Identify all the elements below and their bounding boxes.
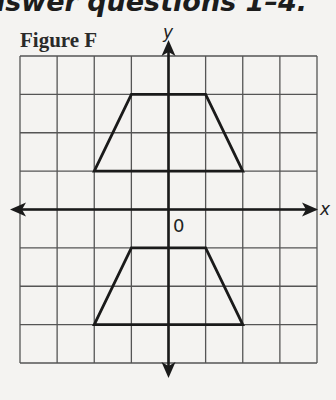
axes (10, 40, 318, 378)
origin-label: 0 (173, 215, 184, 236)
x-axis-label: x (319, 199, 331, 219)
y-axis-label: y (162, 22, 174, 42)
coordinate-plane: x y 0 (0, 0, 336, 400)
